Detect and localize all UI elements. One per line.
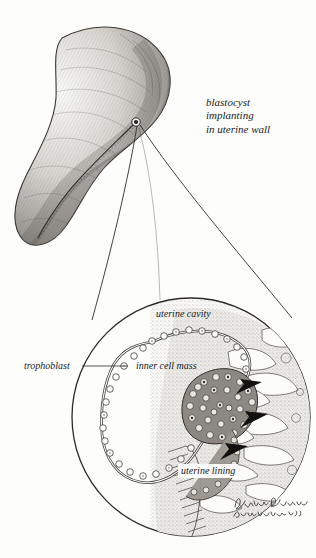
implantation-site-marker xyxy=(132,118,140,126)
illustration-canvas: blastocyst implanting in uterine wall ut… xyxy=(0,0,316,558)
drawing-layer xyxy=(0,0,316,558)
caption-line-2: implanting xyxy=(206,109,310,122)
caption-line-1: blastocyst xyxy=(206,96,310,109)
label-uterine-lining: uterine lining xyxy=(178,464,238,478)
label-inner-cell-mass: inner cell mass xyxy=(136,360,197,372)
artist-signature xyxy=(232,492,310,520)
label-trophoblast: trophoblast xyxy=(24,360,70,372)
magnifier-leader-lines xyxy=(92,125,292,320)
label-uterine-cavity: uterine cavity xyxy=(156,308,211,320)
uterus-overview xyxy=(0,0,200,270)
figure-caption: blastocyst implanting in uterine wall xyxy=(206,96,310,136)
caption-line-3: in uterine wall xyxy=(206,123,310,136)
